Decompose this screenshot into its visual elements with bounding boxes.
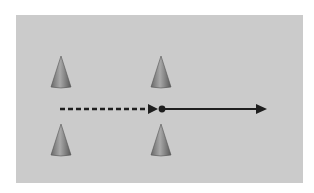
dashed-path-arrowhead	[148, 104, 158, 114]
cone-bottom-left	[51, 124, 71, 156]
cone-bottom-right	[151, 124, 171, 156]
cone-top-right	[151, 56, 171, 88]
cone-top-left	[51, 56, 71, 88]
solid-path-arrowhead	[256, 104, 267, 114]
drill-diagram	[0, 0, 314, 193]
